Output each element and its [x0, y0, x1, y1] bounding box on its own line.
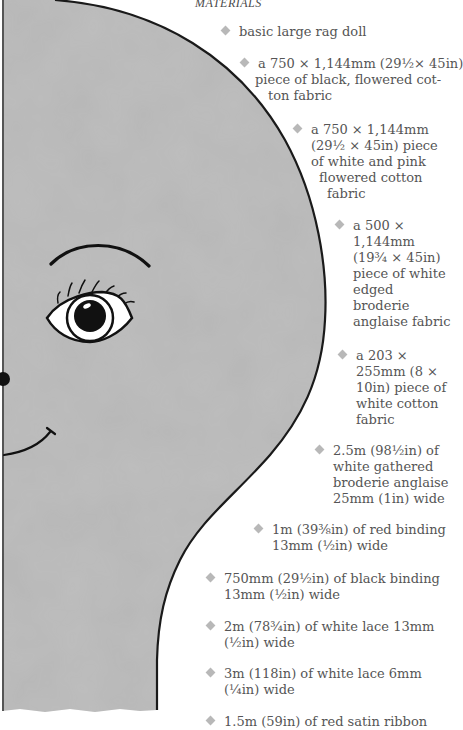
- material-item: 1m (39⅜in) of red binding 13mm (½in) wid…: [272, 522, 446, 554]
- material-item: basic large rag doll: [239, 24, 366, 40]
- materials-heading: MATERIALS: [195, 0, 262, 11]
- material-item: a 203 × 255mm (8 × 10in) piece of white …: [356, 348, 446, 428]
- material-item: 1.5m (59in) of red satin ribbon: [224, 714, 427, 730]
- material-item: a 500 × 1,144mm (19¾ × 45in) piece of wh…: [353, 218, 451, 330]
- material-item: 2.5m (98½in) of white gathered broderie …: [333, 443, 448, 507]
- material-item: 750mm (29½in) of black binding 13mm (½in…: [224, 571, 440, 603]
- material-item: a 750 × 1,144mm (29½ × 45in) piece of wh…: [311, 122, 438, 202]
- material-item: a 750 × 1,144mm (29½× 45in) piece of bla…: [258, 56, 463, 104]
- material-item: 2m (78¾in) of white lace 13mm (½in) wide: [224, 619, 434, 651]
- material-item: 3m (118in) of white lace 6mm (¼in) wide: [224, 666, 422, 698]
